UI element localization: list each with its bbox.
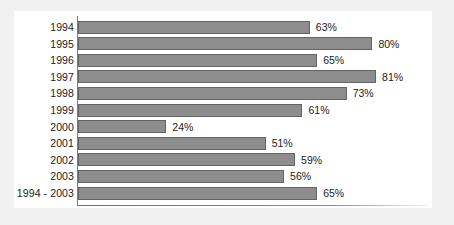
bar-row: 199463% <box>14 20 432 35</box>
bar-row: 200259% <box>14 153 432 168</box>
bar <box>78 170 284 183</box>
bar <box>78 70 376 83</box>
bar-value-label: 56% <box>290 169 311 184</box>
bar-chart-figure: 199463%199580%199665%199781%199873%19996… <box>14 11 432 208</box>
bar-row: 199961% <box>14 103 432 118</box>
bar-row: 1994 - 200365% <box>14 186 432 201</box>
category-label: 2001 <box>14 136 74 151</box>
bar-value-label: 73% <box>353 86 374 101</box>
category-label: 1994 - 2003 <box>14 186 74 201</box>
category-label: 1997 <box>14 70 74 85</box>
bar-row: 199665% <box>14 53 432 68</box>
category-label: 1995 <box>14 37 74 52</box>
category-label: 1998 <box>14 86 74 101</box>
bar <box>78 21 310 34</box>
bar-value-label: 65% <box>323 53 344 68</box>
bar-value-label: 51% <box>272 136 293 151</box>
x-axis-line <box>77 205 429 206</box>
bar-value-label: 61% <box>308 103 329 118</box>
category-label: 1999 <box>14 103 74 118</box>
bar-row: 200151% <box>14 136 432 151</box>
category-label: 1996 <box>14 53 74 68</box>
bar-row: 200024% <box>14 120 432 135</box>
bar-row: 199781% <box>14 70 432 85</box>
bar-value-label: 24% <box>172 120 193 135</box>
bar-value-label: 63% <box>316 20 337 35</box>
bar <box>78 137 266 150</box>
bar <box>78 187 317 200</box>
bar <box>78 54 317 67</box>
category-label: 2002 <box>14 153 74 168</box>
bar-value-label: 81% <box>382 70 403 85</box>
category-label: 2000 <box>14 120 74 135</box>
bar-row: 199873% <box>14 86 432 101</box>
plot-area: 199463%199580%199665%199781%199873%19996… <box>14 11 432 208</box>
bar-row: 199580% <box>14 37 432 52</box>
bar-value-label: 65% <box>323 186 344 201</box>
bar <box>78 87 347 100</box>
bar <box>78 120 166 133</box>
bar-row: 200356% <box>14 169 432 184</box>
category-label: 1994 <box>14 20 74 35</box>
bar <box>78 104 302 117</box>
bar-value-label: 59% <box>301 153 322 168</box>
category-label: 2003 <box>14 169 74 184</box>
bar-value-label: 80% <box>378 37 399 52</box>
bar <box>78 37 372 50</box>
bar <box>78 153 295 166</box>
